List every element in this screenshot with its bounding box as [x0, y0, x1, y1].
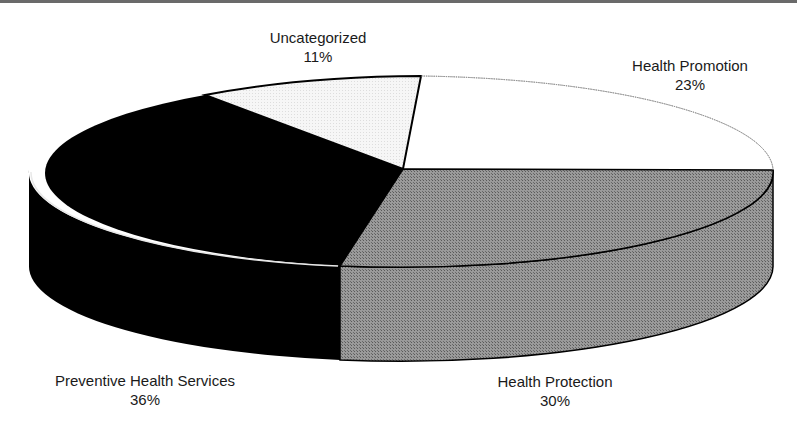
label-protection-pct: 30%	[455, 391, 655, 410]
label-promotion-name: Health Promotion	[595, 56, 785, 75]
label-uncategorized-name: Uncategorized	[228, 28, 408, 47]
label-promotion-pct: 23%	[595, 75, 785, 94]
label-health-promotion: Health Promotion 23%	[595, 56, 785, 94]
label-preventive-name: Preventive Health Services	[20, 371, 270, 390]
label-protection-name: Health Protection	[455, 372, 655, 391]
label-uncategorized: Uncategorized 11%	[228, 28, 408, 66]
label-health-protection: Health Protection 30%	[455, 372, 655, 410]
label-preventive-pct: 36%	[20, 390, 270, 409]
label-preventive-health-services: Preventive Health Services 36%	[20, 371, 270, 409]
label-uncategorized-pct: 11%	[228, 47, 408, 66]
